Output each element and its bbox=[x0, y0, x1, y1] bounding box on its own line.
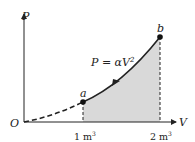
point-b bbox=[157, 34, 163, 40]
pv-diagram: P V O a b P = αV2 1 m3 2 m3 bbox=[0, 0, 195, 142]
point-a bbox=[80, 99, 86, 105]
x-axis-label: V bbox=[179, 116, 188, 129]
curve-dashed-segment bbox=[24, 102, 83, 122]
point-b-label: b bbox=[157, 22, 164, 35]
tick-label-1: 1 m3 bbox=[74, 130, 96, 142]
origin-label: O bbox=[10, 117, 19, 130]
y-axis-label: P bbox=[21, 10, 30, 23]
point-a-label: a bbox=[80, 87, 87, 100]
tick-label-2: 2 m3 bbox=[150, 130, 172, 142]
curve-equation: P = αV2 bbox=[90, 56, 135, 69]
